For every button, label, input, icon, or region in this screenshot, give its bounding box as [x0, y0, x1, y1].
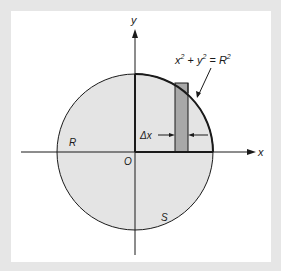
region-r-label: R	[69, 137, 76, 148]
equation-pointer	[198, 68, 211, 96]
x-axis-arrow-icon	[247, 149, 256, 155]
y-axis-label: y	[130, 14, 138, 26]
y-axis-arrow-icon	[132, 29, 138, 38]
origin-label: O	[124, 156, 132, 167]
x-axis-label: x	[257, 146, 264, 158]
delta-x-label: Δx	[139, 130, 153, 141]
region-s-label: S	[161, 212, 168, 223]
equation-label: x2 + y2 = R2	[174, 53, 231, 66]
circle-diagram: y x O R S Δx x2 + y2 = R2	[0, 0, 281, 271]
